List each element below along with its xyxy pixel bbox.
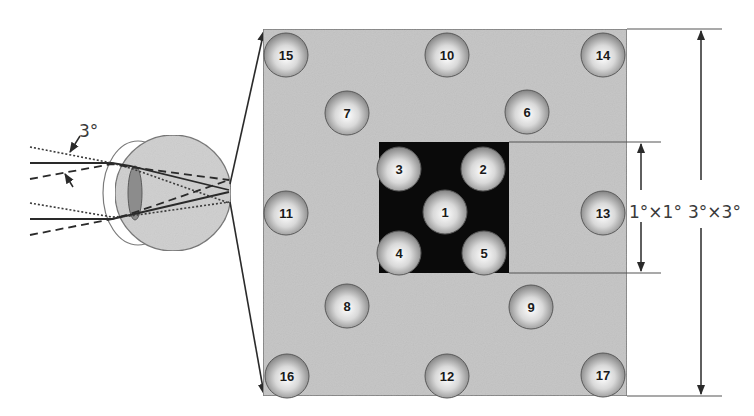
ball-label: 6	[523, 105, 530, 120]
ball-label: 14	[596, 48, 611, 63]
ball-label: 7	[343, 106, 350, 121]
ball-label: 16	[280, 369, 294, 384]
ball-label: 11	[279, 206, 293, 221]
angle-label: 3°	[79, 121, 98, 141]
stimulus-ball: 4	[377, 231, 421, 275]
ball-label: 4	[395, 246, 403, 261]
eye-illustration: 3°	[30, 31, 264, 394]
stimulus-ball: 5	[462, 231, 506, 275]
stimulus-ball: 14	[581, 33, 625, 77]
stimulus-ball: 1	[423, 190, 467, 234]
stimulus-ball: 9	[509, 285, 553, 329]
stimulus-ball: 17	[581, 353, 625, 397]
ball-label: 12	[440, 369, 454, 384]
ball-label: 5	[480, 246, 487, 261]
ball-label: 15	[279, 48, 293, 63]
stimulus-ball: 10	[425, 33, 469, 77]
projection-arrows	[230, 31, 264, 394]
ball-label: 3	[395, 162, 402, 177]
stimulus-ball: 2	[461, 147, 505, 191]
visual-field-diagram: 3° 1°×1° 3°×3° 1234567891011	[0, 0, 754, 416]
stimulus-ball: 11	[264, 191, 308, 235]
inner-dimension-label: 1°×1°	[629, 202, 682, 222]
stimulus-ball: 13	[581, 191, 625, 235]
ball-label: 17	[596, 368, 610, 383]
stimulus-ball: 8	[325, 284, 369, 328]
stimulus-ball: 3	[377, 147, 421, 191]
ball-label: 2	[479, 162, 486, 177]
ball-label: 9	[527, 300, 534, 315]
stimulus-ball: 16	[265, 354, 309, 398]
ball-label: 8	[343, 299, 350, 314]
angle-indicator	[65, 136, 80, 187]
ball-label: 10	[440, 48, 454, 63]
stimulus-ball: 12	[425, 354, 469, 398]
stimulus-ball: 7	[325, 91, 369, 135]
stimulus-ball: 6	[505, 90, 549, 134]
visual-field: 1°×1° 3°×3° 1234567891011121314151617	[263, 29, 741, 398]
ball-label: 1	[441, 205, 448, 220]
outer-dimension-label: 3°×3°	[688, 202, 741, 222]
ball-label: 13	[596, 206, 610, 221]
stimulus-ball: 15	[264, 33, 308, 77]
